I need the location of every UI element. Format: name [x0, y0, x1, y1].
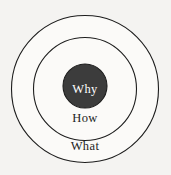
golden-circle-diagram: What How Why: [0, 0, 171, 175]
ring-label-what: What: [71, 139, 100, 153]
ring-label-why: Why: [72, 82, 98, 96]
golden-circle-canvas: What How Why: [0, 0, 171, 175]
ring-label-how: How: [72, 111, 98, 125]
